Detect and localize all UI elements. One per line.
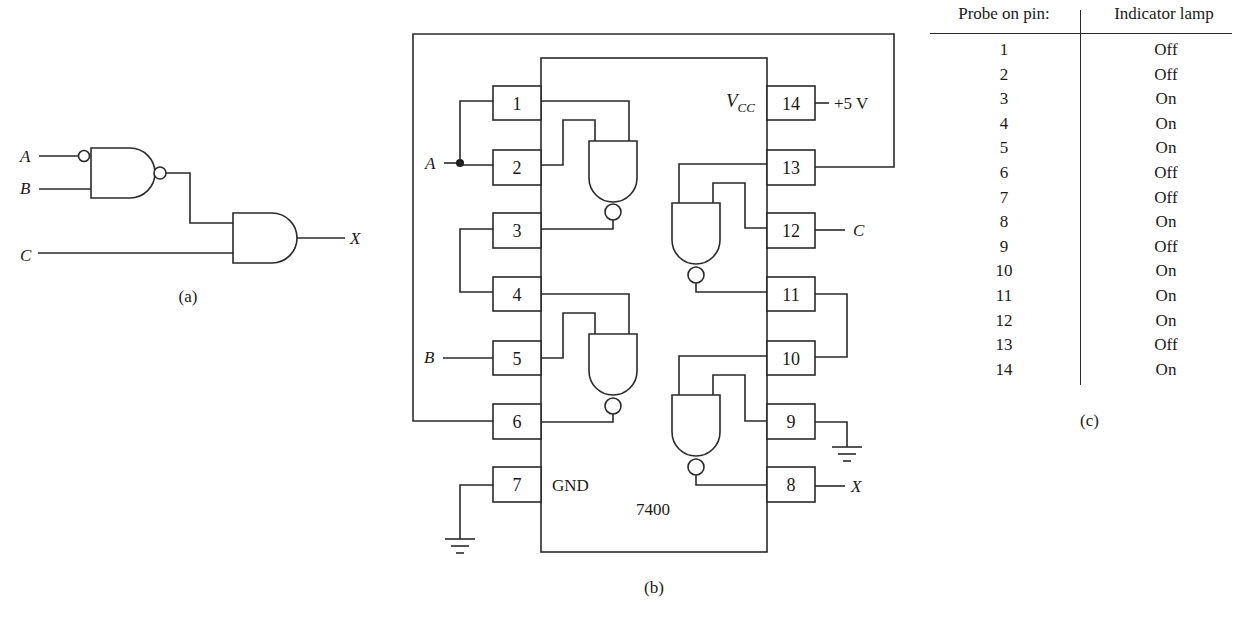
pin-cell: 2 xyxy=(928,63,1080,88)
pin-cell: 13 xyxy=(928,333,1080,358)
pin-6-number: 6 xyxy=(513,412,522,432)
lamp-cell: On xyxy=(1080,284,1242,309)
table-row: 14On xyxy=(928,358,1248,383)
table-row: 1Off xyxy=(928,38,1248,63)
pin-cell: 1 xyxy=(928,38,1080,63)
pin-cell: 6 xyxy=(928,161,1080,186)
lamp-cell: Off xyxy=(1080,63,1242,88)
header-probe-pin: Probe on pin: xyxy=(928,2,1080,30)
pin6-to-pin13-wire xyxy=(413,34,894,421)
pin-2-number: 2 xyxy=(513,158,522,178)
table-row: 6Off xyxy=(928,161,1248,186)
pin-4-number: 4 xyxy=(513,285,522,305)
table-row: 2Off xyxy=(928,63,1248,88)
figure-a-logic-diagram: A B C X (a) xyxy=(19,147,361,306)
ground-symbol-pin7 xyxy=(445,539,475,553)
pin-11-number: 11 xyxy=(782,285,799,305)
pin-8-number: 8 xyxy=(787,475,796,495)
lamp-cell: On xyxy=(1080,259,1242,284)
pin9-gnd-wire xyxy=(815,422,847,447)
pin-3-number: 3 xyxy=(513,221,522,241)
pin-5-number: 5 xyxy=(513,349,522,369)
pin-cell: 9 xyxy=(928,235,1080,260)
output-inversion-bubble xyxy=(154,167,166,179)
figure-b-caption: (b) xyxy=(644,578,664,597)
pin-12-number: 12 xyxy=(782,221,800,241)
pin-cell: 10 xyxy=(928,259,1080,284)
pin-cell: 11 xyxy=(928,284,1080,309)
table-row: 13Off xyxy=(928,333,1248,358)
signal-a-label: A xyxy=(424,154,436,173)
pin-10-number: 10 xyxy=(782,349,800,369)
lamp-cell: On xyxy=(1080,358,1242,383)
figure-c-caption: (c) xyxy=(1080,411,1099,431)
input-b-label: B xyxy=(20,179,31,198)
chip-label: 7400 xyxy=(636,500,670,519)
table-row: 3On xyxy=(928,87,1248,112)
pin1-a-wire xyxy=(460,101,493,165)
figure-a-caption: (a) xyxy=(179,287,198,306)
ground-symbol-pin9 xyxy=(832,447,862,461)
right-pins: 14 13 12 11 10 9 8 xyxy=(767,86,815,502)
nand-gate-4 xyxy=(672,356,767,485)
pin2-a-wire xyxy=(460,163,493,165)
pin-cell: 4 xyxy=(928,112,1080,137)
table-row: 10On xyxy=(928,259,1248,284)
table-row: 7Off xyxy=(928,186,1248,211)
pin7-gnd-wire xyxy=(460,485,493,539)
table-row: 5On xyxy=(928,136,1248,161)
pin-cell: 3 xyxy=(928,87,1080,112)
table-row: 12On xyxy=(928,309,1248,334)
left-pins: 1 2 3 4 5 6 7 xyxy=(493,86,541,502)
lamp-cell: On xyxy=(1080,309,1242,334)
header-rule xyxy=(930,33,1232,34)
lamp-cell: Off xyxy=(1080,235,1242,260)
nand-gate-2 xyxy=(541,294,637,422)
table-body: 1Off 2Off 3On 4On 5On 6Off 7Off 8On 9Off… xyxy=(928,38,1248,382)
pin-cell: 7 xyxy=(928,186,1080,211)
nand-gate-3 xyxy=(672,164,767,292)
pin-cell: 5 xyxy=(928,136,1080,161)
input-a-label: A xyxy=(19,147,31,166)
signal-c-label: C xyxy=(853,221,865,240)
signal-x-label: X xyxy=(850,477,862,496)
table-row: 9Off xyxy=(928,235,1248,260)
probe-results-table: Probe on pin: Indicator lamp 1Off 2Off 3… xyxy=(928,2,1248,30)
nand-to-and-wire xyxy=(166,173,233,223)
table-header: Probe on pin: Indicator lamp xyxy=(928,2,1248,30)
lamp-cell: Off xyxy=(1080,333,1242,358)
pin-13-number: 13 xyxy=(782,158,800,178)
pin-9-number: 9 xyxy=(787,412,796,432)
lamp-cell: Off xyxy=(1080,161,1242,186)
output-x-label: X xyxy=(349,229,361,248)
pin-7-number: 7 xyxy=(513,475,522,495)
pin-cell: 12 xyxy=(928,309,1080,334)
and-gate xyxy=(233,213,297,263)
input-inversion-bubble xyxy=(79,151,90,162)
pin11-pin10-jumper xyxy=(815,294,847,357)
figure-b-ic-wiring: 1 2 3 4 5 6 7 14 13 12 11 10 9 8 A xyxy=(413,34,894,597)
pin3-pin4-jumper xyxy=(460,229,493,292)
lamp-cell: On xyxy=(1080,136,1242,161)
lamp-cell: On xyxy=(1080,210,1242,235)
nand-gate-1 xyxy=(541,101,637,229)
pin-1-number: 1 xyxy=(513,94,522,114)
vcc-label: VCC xyxy=(726,90,755,115)
table-row: 11On xyxy=(928,284,1248,309)
gnd-label: GND xyxy=(552,476,589,495)
table-row: 4On xyxy=(928,112,1248,137)
pin-14-number: 14 xyxy=(782,94,800,114)
lamp-cell: On xyxy=(1080,112,1242,137)
lamp-cell: Off xyxy=(1080,38,1242,63)
pin-cell: 8 xyxy=(928,210,1080,235)
table-row: 8On xyxy=(928,210,1248,235)
pin-cell: 14 xyxy=(928,358,1080,383)
supply-label: +5 V xyxy=(834,94,869,113)
signal-b-label: B xyxy=(424,348,435,367)
input-c-label: C xyxy=(20,246,32,265)
lamp-cell: Off xyxy=(1080,186,1242,211)
header-indicator-lamp: Indicator lamp xyxy=(1080,2,1248,30)
lamp-cell: On xyxy=(1080,87,1242,112)
nand-gate xyxy=(91,148,155,198)
